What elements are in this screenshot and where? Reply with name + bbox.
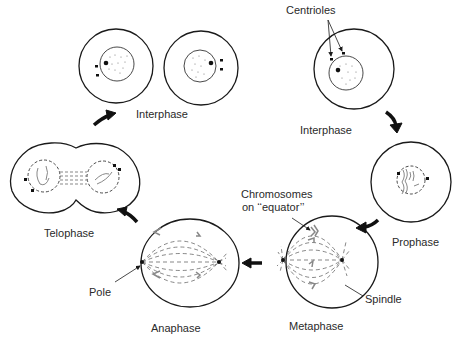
label-chromosomes-line2: on ‘‘equator’’ [242,201,304,213]
label-interphase: Interphase [300,124,352,136]
spindle-fibers [142,241,228,283]
interphase-daughter-cell-right [164,31,238,105]
label-anaphase: Anaphase [151,322,201,334]
pole-pointer-line [115,266,140,282]
label-centrioles: Centrioles [286,4,336,16]
label-pole: Pole [89,286,111,298]
interphase-cell [314,29,394,109]
mitosis-diagram: Interphase Interphase Prophase Metaphase… [0,0,458,340]
midbody-fibers [60,172,87,184]
anaphase-cell [140,219,239,307]
diagram-canvas [0,0,458,340]
label-spindle: Spindle [365,293,402,305]
telophase-cell [11,143,140,213]
label-prophase: Prophase [392,236,439,248]
interphase-daughter-cell-left [79,29,153,103]
label-interphase-daughters: Interphase [136,108,188,120]
spindle-pointer-line [345,285,363,296]
centrioles-pointer-lines [328,20,342,56]
chromosomes [402,169,419,194]
chromatin-dots [108,54,127,73]
chromosomes [308,225,318,289]
label-chromosomes-line1: Chromosomes [241,188,313,200]
label-telophase: Telophase [44,227,94,239]
label-metaphase: Metaphase [289,320,343,332]
prophase-cell [371,142,451,222]
